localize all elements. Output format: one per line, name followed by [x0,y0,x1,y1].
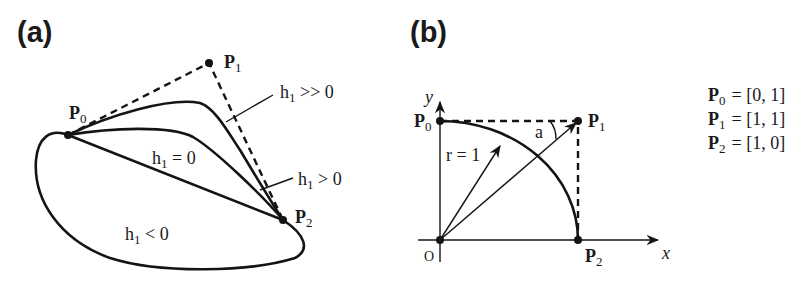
control-polygon [68,63,283,220]
label-h1-zero: h1 = 0 [152,148,196,171]
label-b-p1: P1 [588,111,606,134]
coordinates-legend: P0= [0, 1] P1= [1, 1] P2= [1, 0] [708,85,785,156]
legend-p0: P0= [0, 1] [708,85,785,108]
point-p0 [64,131,72,139]
label-b-p2: P2 [585,246,603,269]
label-p2: P2 [295,207,313,230]
panel-a-label: (a) [17,16,52,48]
angle-label: a [535,122,543,142]
label-h1-much-greater: h1 >> 0 [280,82,334,105]
panel-a: (a) P0 P1 P2 h1 >> 0 [17,16,342,269]
leader-h1-much-greater [226,95,273,122]
legend-p2: P2= [1, 0] [708,133,785,156]
label-h1-greater: h1 > 0 [298,169,342,192]
point-b-p2 [574,236,582,244]
point-b-p1 [574,117,582,125]
point-origin [436,236,444,244]
legend-p1: P1= [1, 1] [708,109,785,132]
label-p1: P1 [224,52,242,75]
point-p1 [205,59,213,67]
x-axis-label: x [661,243,670,263]
label-h1-negative: h1 < 0 [125,224,169,247]
point-b-p0 [436,117,444,125]
y-axis-label: y [423,87,433,107]
angle-arc [550,121,556,139]
p1-vector-arrow [440,123,576,240]
point-p2 [279,216,287,224]
radius-label: r = 1 [446,145,480,165]
label-p0: P0 [69,103,87,126]
origin-label: O [424,249,434,264]
panel-b-label: (b) [410,16,447,48]
label-b-p0: P0 [414,111,432,134]
panel-b: (b) y x O a r = 1 P0 P1 P2 [410,16,785,269]
figure: (a) P0 P1 P2 h1 >> 0 [0,0,812,286]
